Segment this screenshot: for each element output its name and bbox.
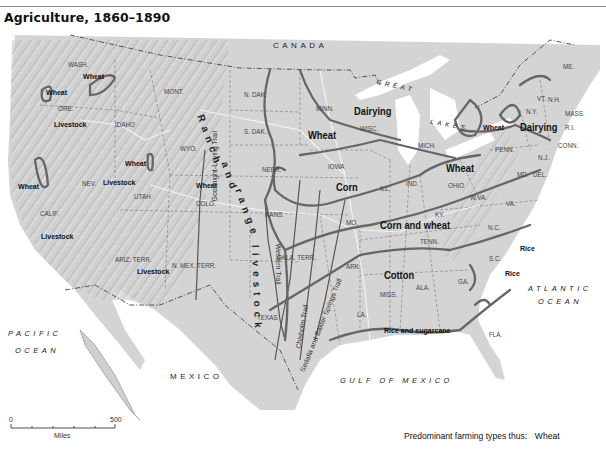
state-nmex: N. MEX. TERR. [172, 262, 216, 269]
legend-example: Wheat [535, 430, 560, 441]
region-wheat-plains: Wheat [308, 130, 336, 141]
state-penn: PENN. [495, 146, 514, 153]
state-ga: GA. [458, 278, 469, 285]
state-fla: FLA. [489, 331, 502, 338]
scale-bar [11, 424, 115, 428]
trail-western: Western Trail [275, 244, 282, 285]
region-corn-and-wheat: Corn and wheat [380, 220, 450, 231]
region-wheat-ore: Wheat [46, 89, 67, 97]
state-nev: NEV. [82, 180, 96, 187]
state-mich: MICH. [418, 142, 436, 149]
state-vt: VT. [537, 95, 546, 102]
region-livestock-calif: Livestock [41, 233, 73, 241]
state-me: ME. [563, 63, 574, 70]
region-dairying-ne: Dairying [520, 122, 557, 133]
state-la: LA. [357, 311, 366, 318]
state-ny: N.Y. [526, 108, 537, 115]
state-mo: MO. [346, 219, 358, 226]
state-ndak: N. DAK. [244, 91, 267, 98]
state-ky: KY. [435, 211, 444, 218]
legend: Predominant farming types thus: Wheat [404, 430, 560, 441]
state-ariz: ARIZ. TERR. [115, 256, 152, 263]
region-cotton: Cotton [384, 270, 414, 281]
state-ore: ORE. [58, 105, 73, 112]
state-minn: MINN. [316, 105, 334, 112]
label-gulf-of-mexico: GULF OF MEXICO [340, 377, 453, 385]
state-sc: S.C. [489, 255, 501, 262]
state-del: DEL. [533, 171, 547, 178]
label-canada: CANADA [273, 42, 327, 50]
state-sdak: S. DAK. [244, 128, 266, 135]
state-iowa: IOWA [328, 163, 345, 170]
label-atlantic-2: OCEAN [538, 298, 582, 306]
region-wheat-ohio: Wheat [446, 163, 474, 174]
region-livestock-plains: livestock [250, 245, 263, 333]
state-nebr: NEBR. [262, 166, 281, 173]
state-wva: W.VA. [470, 194, 487, 201]
trail-goodnight-loving: Goodnight-Loving Trail [211, 131, 218, 201]
state-ohio: OHIO [448, 182, 464, 189]
region-wheat-wash: Wheat [83, 73, 104, 81]
state-nc: N.C. [488, 224, 501, 231]
state-ind: IND. [406, 180, 419, 187]
region-livestock-ariz: Livestock [137, 268, 169, 276]
scale-unit: Miles [54, 432, 70, 439]
scale-start: 0 [9, 416, 13, 423]
region-wheat-calif: Wheat [18, 183, 39, 191]
state-mont: MONT. [164, 88, 184, 95]
state-idaho: IDAHO [115, 121, 135, 128]
state-md: MD. [517, 171, 529, 178]
state-ala: ALA. [416, 284, 430, 291]
legend-label: Predominant farming types thus: [404, 430, 527, 441]
state-va: VA. [506, 200, 516, 207]
scale-end: 500 [110, 416, 122, 423]
state-ri: R.I. [565, 124, 575, 131]
state-wyo: WYO. [180, 145, 197, 152]
region-wheat-ny: Wheat [483, 124, 504, 132]
label-mexico: MEXICO [170, 373, 223, 381]
state-wash: WASH. [68, 61, 88, 68]
state-ark: ARK. [346, 263, 361, 270]
label-atlantic-1: ATLANTIC [528, 285, 592, 293]
state-wisc: WISC. [360, 125, 378, 132]
region-rice-sc: Rice [520, 245, 535, 253]
state-mass: MASS. [565, 110, 585, 117]
state-utah: UTAH [134, 193, 151, 200]
region-livestock-ore: Livestock [54, 121, 86, 129]
state-okla: OKLA. TERR. [277, 254, 316, 261]
region-rice-sugarcane: Rice and sugarcane [384, 327, 451, 335]
state-kans: KANS. [265, 211, 284, 218]
state-nh: N.H. [548, 96, 561, 103]
state-ill: ILL. [380, 185, 391, 192]
region-livestock-nev: Livestock [103, 179, 135, 187]
region-dairying-wisc: Dairying [354, 106, 391, 117]
region-rice-ga: Rice [505, 270, 520, 278]
label-pacific-2: OCEAN [15, 347, 59, 355]
state-nj: N.J. [538, 154, 549, 161]
state-miss: MISS. [380, 291, 397, 298]
state-calif: CALIF. [40, 210, 59, 217]
region-corn: Corn [336, 182, 358, 193]
label-pacific-1: PACIFIC [8, 330, 62, 338]
state-tenn: TENN. [420, 238, 439, 245]
region-wheat-utah: Wheat [125, 160, 146, 168]
map-canvas [0, 0, 606, 450]
state-conn: CONN. [558, 142, 578, 149]
